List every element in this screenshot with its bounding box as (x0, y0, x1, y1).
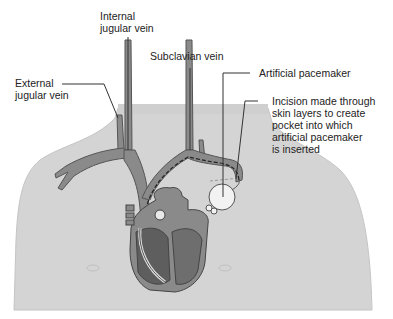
label-internal-jugular-vein: Internal jugular vein (100, 10, 154, 34)
label-line: pocket into which (272, 119, 375, 131)
label-line: artificial pacemaker (272, 131, 375, 143)
label-external-jugular-vein: External jugular vein (15, 77, 69, 101)
label-line: jugular vein (15, 89, 69, 101)
label-subclavian-vein: Subclavian vein (150, 50, 224, 62)
pacemaker-diagram: Internal jugular vein External jugular v… (0, 0, 393, 319)
label-artificial-pacemaker: Artificial pacemaker (259, 67, 351, 79)
label-line: jugular vein (100, 22, 154, 34)
label-incision: Incision made through skin layers to cre… (272, 95, 375, 155)
label-line: is inserted (272, 143, 375, 155)
label-line: Incision made through (272, 95, 375, 107)
label-line: External (15, 77, 69, 89)
label-line: skin layers to create (272, 107, 375, 119)
label-line: Subclavian vein (150, 50, 224, 62)
label-line: Artificial pacemaker (259, 67, 351, 79)
anatomy-illustration (0, 0, 393, 319)
label-line: Internal (100, 10, 154, 22)
